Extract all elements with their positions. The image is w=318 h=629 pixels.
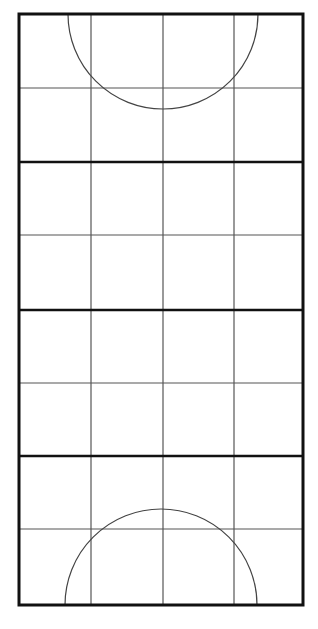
court-diagram — [0, 0, 318, 629]
bottom-semicircle-arc — [65, 509, 257, 605]
